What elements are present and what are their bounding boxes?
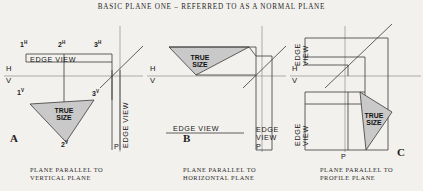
panel-a-axis-v: V <box>6 76 11 85</box>
panel-c-caption: PLANE PARALLEL TO PROFILE PLANE <box>320 166 393 182</box>
panel-c-edge-view-lower: EDGE VIEW <box>294 123 311 146</box>
panel-c-letter: C <box>397 146 405 158</box>
panel-a-point-3v: 3V <box>92 89 99 97</box>
panel-a-letter: A <box>10 132 18 144</box>
panel-b-letter: B <box>183 132 190 144</box>
panel-b-axis-v: V <box>150 76 155 85</box>
drawing-sheet: BASIC PLANE ONE – REFERRED TO AS A NORMA… <box>0 0 423 191</box>
panel-c-axis-v: V <box>292 76 297 85</box>
panel-a-point-3h: 3H <box>94 40 101 48</box>
panel-b-edge-view-right: EDGE VIEW <box>256 126 279 143</box>
panel-c-true-size-label: TRUE SIZE <box>355 112 393 126</box>
panel-a-edge-view-right: EDGE VIEW <box>121 102 130 148</box>
panel-a-edge-view-top: EDGE VIEW <box>30 55 76 64</box>
panel-c-edge-view-upper: EDGE VIEW <box>294 43 311 66</box>
panel-a-true-size-label: TRUE SIZE <box>42 107 86 121</box>
panel-a-point-2h: 2H <box>58 40 65 48</box>
panel-a-point-1h: 1H <box>20 40 27 48</box>
panel-b-caption: PLANE PARALLEL TO HORIZONTAL PLANE <box>183 166 256 182</box>
drafting-linework: .ln{stroke:#3a3a3a;stroke-width:0.8;fill… <box>0 0 423 191</box>
panel-b-edge-view-bottom: EDGE VIEW <box>173 124 219 133</box>
panel-c-axis-h: H <box>292 64 297 73</box>
panel-a-point-1v: 1V <box>17 88 24 96</box>
panel-b-true-size-label: TRUE SIZE <box>178 54 222 68</box>
panel-a-profile-mark: P <box>114 142 119 151</box>
panel-a-caption: PLANE PARALLEL TO VERTICAL PLANE <box>30 166 103 182</box>
panel-c-profile-mark: P <box>341 152 346 161</box>
panel-b-profile-mark: P <box>256 142 261 151</box>
panel-b-axis-h: H <box>150 64 155 73</box>
panel-a-axis-h: H <box>6 64 11 73</box>
panel-a-point-2v: 2V <box>61 140 68 148</box>
